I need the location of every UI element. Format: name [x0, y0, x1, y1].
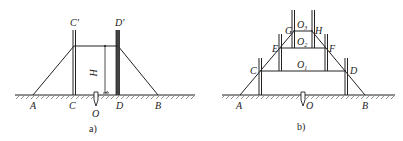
post-c-b	[259, 58, 262, 95]
caption-a: a)	[89, 123, 97, 135]
label-d-a: D	[115, 100, 124, 111]
peg-o-b	[301, 92, 305, 106]
label-h-b: H	[314, 25, 323, 36]
label-o2: O2	[297, 36, 307, 48]
label-d-prime: D'	[114, 17, 125, 28]
slope-left-b	[240, 30, 295, 95]
diagram-canvas: H A C D B O C' D' a)	[0, 0, 403, 141]
label-o-b: O	[306, 100, 313, 111]
label-b-b: B	[362, 100, 368, 111]
post-d-a	[116, 30, 120, 95]
label-h: H	[88, 69, 99, 78]
label-c-a: C	[69, 100, 76, 111]
peg-o-a	[94, 92, 98, 106]
figure-a: H A C D B O C' D' a)	[15, 17, 195, 135]
ground-b	[222, 95, 395, 99]
post-e	[279, 34, 282, 71]
label-a-a: A	[29, 100, 37, 111]
post-g	[292, 10, 295, 48]
label-o1: O1	[297, 59, 307, 71]
ground-a	[15, 95, 195, 99]
label-b-a: B	[155, 100, 161, 111]
post-d-b	[345, 58, 348, 95]
slope-right-b	[311, 30, 365, 95]
label-e: E	[271, 43, 278, 54]
post-f	[325, 34, 328, 71]
label-d-b: D	[349, 65, 358, 76]
label-o-a: O	[92, 108, 99, 119]
label-a-b: A	[235, 100, 243, 111]
label-f: F	[328, 43, 336, 54]
height-dimension	[103, 45, 109, 93]
label-c-b: C	[250, 65, 257, 76]
post-c-a	[73, 30, 76, 95]
figure-b: A B O C D E F G H O1 O2 O3 b)	[222, 10, 395, 133]
caption-b: b)	[297, 121, 305, 133]
label-c-prime: C'	[70, 17, 80, 28]
slope-left-a	[33, 46, 74, 95]
label-g: G	[285, 25, 292, 36]
label-o3: O3	[297, 19, 307, 31]
slope-right-a	[118, 46, 158, 95]
